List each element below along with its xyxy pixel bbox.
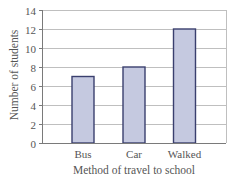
x-tick-label: Car	[126, 148, 142, 160]
x-tick-label: Walked	[168, 148, 202, 160]
x-axis-title: Method of travel to school	[73, 164, 195, 176]
y-tick-label: 10	[25, 43, 37, 55]
y-tick-label: 14	[25, 5, 37, 17]
y-axis-ticks: 02468101214	[25, 5, 42, 150]
y-tick-label: 0	[31, 138, 37, 150]
bar-chart: 02468101214 BusCarWalked Method of trave…	[0, 0, 233, 181]
bar-car	[123, 67, 145, 143]
x-tick-label: Bus	[74, 148, 91, 160]
bars	[72, 29, 196, 143]
x-axis-tick-labels: BusCarWalked	[74, 148, 201, 160]
y-tick-label: 12	[25, 24, 36, 36]
bar-bus	[72, 77, 94, 144]
y-tick-label: 4	[31, 100, 37, 112]
y-tick-label: 6	[31, 81, 37, 93]
y-tick-label: 8	[31, 62, 37, 74]
y-tick-label: 2	[31, 119, 37, 131]
bar-walked	[174, 29, 196, 143]
y-axis-title: Number of students	[8, 29, 20, 120]
